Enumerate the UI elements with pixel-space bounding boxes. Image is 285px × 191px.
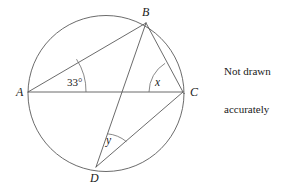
vertex-label-a: A: [15, 85, 24, 99]
chord-b-c: [146, 23, 183, 92]
geometry-figure: A B C D 33° x y Not drawn accurately: [0, 0, 285, 191]
note-line-1: Not drawn: [224, 65, 284, 78]
angle-label-y: y: [105, 134, 112, 147]
vertex-label-c: C: [190, 85, 199, 99]
circle-outline: [28, 16, 184, 172]
angle-label-x: x: [154, 76, 161, 88]
not-drawn-accurately-note: Not drawn accurately: [224, 40, 284, 140]
note-line-2: accurately: [224, 103, 284, 116]
vertex-label-d: D: [89, 171, 99, 185]
vertex-label-b: B: [142, 5, 150, 19]
chord-a-b: [28, 23, 146, 92]
angle-label-33-degrees: 33°: [67, 76, 82, 88]
